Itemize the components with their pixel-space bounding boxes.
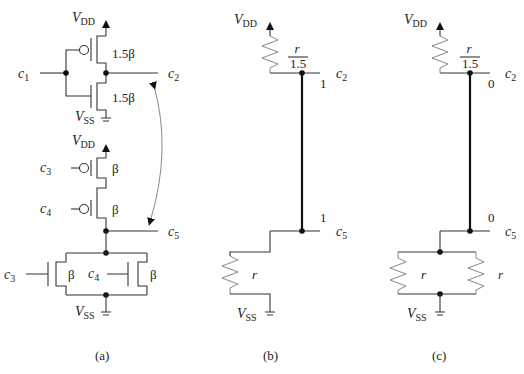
pmos-series-channel	[97, 158, 106, 231]
resistor-icon	[222, 256, 238, 294]
input-c3-label: c3	[40, 160, 51, 177]
coupling-arrow	[150, 86, 162, 222]
vdd-arrow-icon	[102, 20, 110, 28]
ground-icon	[101, 118, 111, 121]
circuit-figure: VDD 1.5β 1.5β c1 c2 VSS	[0, 0, 524, 374]
nmos-left-channel	[56, 253, 66, 295]
vdd-arrow-icon	[436, 22, 444, 30]
svg-text:β: β	[112, 161, 119, 176]
caption-c: (c)	[432, 348, 446, 363]
svg-text:r: r	[294, 41, 300, 56]
svg-text:r: r	[252, 267, 258, 282]
node-c2-value: 1	[320, 76, 327, 91]
svg-text:VSS: VSS	[407, 306, 427, 323]
nmos-size-label: 1.5β	[112, 90, 135, 105]
vdd-label-2: VDD	[72, 133, 95, 150]
svg-text:VDD: VDD	[404, 12, 427, 29]
resistor-icon	[390, 252, 406, 294]
svg-text:c2: c2	[336, 66, 347, 83]
svg-text:β: β	[68, 267, 75, 282]
node-c5-value: 1	[320, 210, 327, 225]
pmos-bubble-icon	[80, 46, 89, 55]
pmos-size-label: 1.5β	[112, 46, 135, 61]
svg-text:c5: c5	[336, 224, 347, 241]
panel-b: VDD r 1.5 c2 1 1 c5 r VSS (b)	[222, 12, 347, 363]
svg-text:β: β	[112, 202, 119, 217]
svg-text:r: r	[421, 267, 427, 282]
svg-text:r: r	[498, 267, 504, 282]
vdd-arrow-icon	[102, 144, 110, 152]
nor-gate: VDD c3 β c4 β c5 c3 β	[4, 133, 179, 321]
svg-text:VDD: VDD	[234, 12, 257, 29]
vss-label-2: VSS	[75, 304, 95, 321]
pmos-bubble-icon	[80, 164, 89, 173]
panel-a: VDD 1.5β 1.5β c1 c2 VSS	[4, 10, 179, 363]
pmos-bubble-icon	[80, 205, 89, 214]
nmos-right-channel	[138, 253, 147, 295]
output-c2-label: c2	[168, 66, 179, 83]
resistor-icon	[468, 252, 484, 294]
resistor-icon	[432, 36, 448, 73]
ground-icon	[101, 295, 111, 315]
panel-c: VDD r 1.5 c2 0 0 c5 r r VSS (c)	[390, 12, 516, 363]
output-c5-label: c5	[168, 224, 179, 241]
node-c2-value: 0	[488, 76, 495, 91]
svg-text:1.5: 1.5	[462, 56, 478, 71]
svg-text:c5: c5	[505, 224, 516, 241]
nmos-channel	[97, 73, 106, 118]
svg-text:r: r	[466, 41, 472, 56]
caption-a: (a)	[95, 348, 109, 363]
svg-text:VSS: VSS	[237, 306, 257, 323]
resistor-icon	[262, 36, 278, 73]
svg-text:β: β	[150, 267, 157, 282]
input-c4-label: c4	[40, 201, 51, 218]
svg-text:c3: c3	[4, 267, 15, 284]
svg-text:1.5: 1.5	[290, 56, 306, 71]
pmos-channel	[97, 36, 106, 73]
svg-text:c4: c4	[88, 266, 99, 283]
inverter: VDD 1.5β 1.5β c1 c2 VSS	[18, 10, 179, 126]
svg-text:c2: c2	[505, 66, 516, 83]
ground-icon	[435, 294, 445, 315]
caption-b: (b)	[263, 348, 278, 363]
vss-label: VSS	[75, 109, 95, 126]
input-c1-label: c1	[18, 66, 29, 83]
vdd-label: VDD	[72, 10, 95, 27]
node-c5-value: 0	[488, 210, 495, 225]
vdd-arrow-icon	[266, 22, 274, 30]
